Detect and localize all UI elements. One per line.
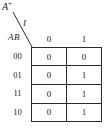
kmap-grid: 0 0 0 1 0 1 0 1 — [31, 47, 102, 122]
next-state-label: A+ — [2, 2, 12, 12]
karnaugh-map-figure: A+ I AB 0 1 00 01 11 10 0 0 0 1 0 1 — [0, 0, 109, 128]
cell-r2-c1: 1 — [67, 84, 102, 103]
row-header-01: 01 — [6, 66, 29, 85]
table-row: 0 1 — [32, 103, 101, 121]
cell-r1-c0: 0 — [32, 66, 67, 85]
next-state-label-superscript: + — [8, 0, 12, 8]
table-row: 0 1 — [32, 84, 101, 103]
row-header-11: 11 — [6, 84, 29, 103]
cell-r3-c0: 0 — [32, 103, 67, 121]
cell-r0-c0: 0 — [32, 48, 67, 66]
corner-header-cell: A+ I AB — [0, 0, 33, 48]
cell-r2-c0: 0 — [32, 84, 67, 103]
input-variable-label: I — [23, 19, 26, 28]
kmap-table: 0 0 0 1 0 1 0 1 — [32, 48, 101, 121]
cell-r1-c1: 1 — [67, 66, 102, 85]
table-row: 0 0 — [32, 48, 101, 66]
table-row: 0 1 — [32, 66, 101, 85]
cell-r0-c1: 0 — [67, 48, 102, 66]
row-header-10: 10 — [6, 103, 29, 122]
column-header-1: 1 — [66, 33, 102, 46]
row-header-00: 00 — [6, 47, 29, 66]
state-variables-label: AB — [8, 33, 20, 42]
cell-r3-c1: 1 — [67, 103, 102, 121]
column-header-0: 0 — [31, 33, 67, 46]
